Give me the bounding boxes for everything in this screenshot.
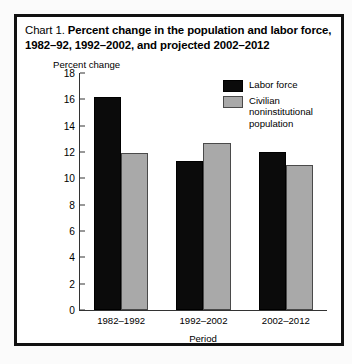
bar-civilian-population	[286, 165, 313, 310]
legend-item: Civilian noninstitutional population	[223, 95, 341, 129]
y-axis-tick-label: 2	[69, 278, 80, 289]
legend-swatch-labor-force	[223, 80, 243, 92]
chart-legend: Labor forceCivilian noninstitutional pop…	[223, 79, 341, 132]
plot-wrapper: Percent change 181614121086420 1982–1992…	[17, 17, 341, 343]
chart-frame: Chart 1. Percent change in the populatio…	[14, 14, 344, 346]
y-axis-tick-label: 14	[64, 120, 80, 131]
y-axis-tick-label: 6	[69, 225, 80, 236]
y-axis-tick-label: 0	[69, 305, 80, 316]
y-axis-tick-label: 10	[64, 173, 80, 184]
y-axis-tick-label: 4	[69, 252, 80, 263]
legend-item: Labor force	[223, 79, 341, 92]
bar-labor-force	[94, 97, 121, 310]
x-axis-title: Period	[79, 333, 327, 344]
y-axis-tick-label: 16	[64, 94, 80, 105]
legend-swatch-civilian-population	[223, 96, 243, 108]
x-axis-tick-label: 2002–2012	[259, 315, 313, 326]
legend-label: Civilian noninstitutional population	[249, 95, 341, 129]
bar-civilian-population	[203, 143, 230, 310]
bar-civilian-population	[121, 153, 148, 310]
x-axis-tick-label: 1982–1992	[94, 315, 148, 326]
y-axis-tick-label: 12	[64, 146, 80, 157]
y-axis-tick-label: 18	[64, 68, 80, 79]
x-axis-tick-label: 1992–2002	[176, 315, 230, 326]
bar-group: 1982–1992	[94, 73, 148, 310]
bar-labor-force	[259, 152, 286, 310]
legend-label: Labor force	[249, 79, 298, 90]
page-background: Chart 1. Percent change in the populatio…	[0, 0, 352, 364]
y-axis-tick-label: 8	[69, 199, 80, 210]
bar-labor-force	[176, 161, 203, 310]
